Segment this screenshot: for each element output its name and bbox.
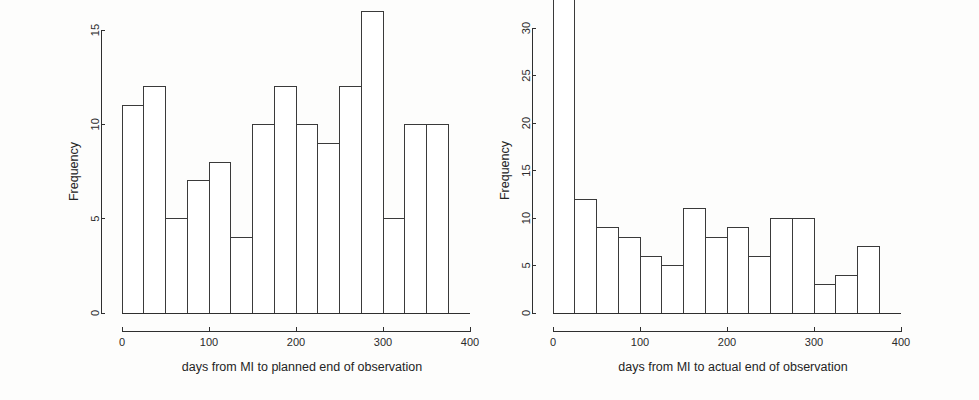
histogram-bar bbox=[340, 87, 362, 313]
y-axis-tick-label: 0 bbox=[520, 310, 532, 316]
histogram-bar bbox=[427, 124, 449, 313]
histogram-bar bbox=[575, 199, 597, 313]
y-axis-tick-label: 10 bbox=[520, 212, 532, 224]
histogram-bar bbox=[122, 105, 144, 313]
histogram-bar bbox=[771, 218, 793, 313]
histogram-panel-actual: 051015202530Frequency0100200300400days f… bbox=[490, 0, 979, 400]
y-axis-tick-label: 20 bbox=[520, 117, 532, 129]
x-axis-title: days from MI to planned end of observati… bbox=[182, 360, 422, 374]
x-axis-title: days from MI to actual end of observatio… bbox=[618, 360, 847, 374]
x-axis-tick-label: 200 bbox=[718, 336, 736, 348]
y-axis-tick-label: 5 bbox=[89, 216, 101, 222]
plot-area-planned: 051015Frequency0100200300400days from MI… bbox=[0, 0, 490, 400]
y-axis-tick-label: 0 bbox=[89, 310, 101, 316]
x-axis-tick-label: 0 bbox=[119, 336, 125, 348]
y-axis-line bbox=[101, 30, 105, 313]
histogram-panel-planned: 051015Frequency0100200300400days from MI… bbox=[0, 0, 490, 400]
x-axis: 0100200300400 bbox=[119, 327, 479, 348]
x-axis-tick-label: 300 bbox=[374, 336, 392, 348]
histogram-bar bbox=[684, 209, 706, 314]
y-axis-planned-or-actual: 051015 bbox=[89, 24, 105, 316]
y-axis-tick-label: 5 bbox=[520, 262, 532, 268]
histogram-bar bbox=[144, 87, 166, 313]
histogram-bar bbox=[383, 219, 405, 313]
histogram-bar bbox=[296, 124, 318, 313]
histogram-bar bbox=[553, 0, 575, 313]
histogram-bar bbox=[749, 256, 771, 313]
x-axis-tick-label: 0 bbox=[550, 336, 556, 348]
y-axis-title: Frequency bbox=[498, 140, 512, 200]
histogram-bar bbox=[705, 237, 727, 313]
y-axis-planned-or-actual: 051015202530 bbox=[520, 22, 536, 316]
histogram-bar bbox=[618, 237, 640, 313]
histogram-bar bbox=[274, 87, 296, 313]
histogram-bar bbox=[836, 275, 858, 313]
y-axis-tick-label: 25 bbox=[520, 69, 532, 81]
histogram-bar bbox=[166, 219, 188, 313]
x-axis-tick-label: 400 bbox=[892, 336, 910, 348]
histogram-bar bbox=[209, 162, 231, 313]
x-axis-tick-label: 100 bbox=[200, 336, 218, 348]
y-axis-tick-label: 30 bbox=[520, 22, 532, 34]
y-axis-tick-label: 10 bbox=[89, 118, 101, 130]
y-axis-tick-label: 15 bbox=[520, 164, 532, 176]
histogram-bar bbox=[231, 238, 253, 313]
y-axis-title: Frequency bbox=[67, 141, 81, 201]
histogram-bar bbox=[318, 143, 340, 313]
histogram-bar bbox=[405, 124, 427, 313]
histogram-bar bbox=[727, 228, 749, 314]
x-axis: 0100200300400 bbox=[550, 327, 910, 348]
histogram-bar bbox=[858, 247, 880, 314]
plot-area-actual: 051015202530Frequency0100200300400days f… bbox=[490, 0, 979, 400]
x-axis-tick-label: 100 bbox=[631, 336, 649, 348]
figure-canvas: 051015Frequency0100200300400days from MI… bbox=[0, 0, 979, 400]
histogram-bar bbox=[253, 124, 275, 313]
histogram-bar bbox=[640, 256, 662, 313]
histogram-bar bbox=[792, 218, 814, 313]
x-axis-tick-label: 300 bbox=[805, 336, 823, 348]
histogram-bar bbox=[187, 181, 209, 313]
x-axis-tick-label: 200 bbox=[287, 336, 305, 348]
x-axis-tick-label: 400 bbox=[461, 336, 479, 348]
y-axis-tick-label: 15 bbox=[89, 24, 101, 36]
histogram-bar bbox=[597, 228, 619, 314]
histogram-bar bbox=[814, 285, 836, 314]
histogram-bars bbox=[553, 0, 879, 313]
histogram-bar bbox=[662, 266, 684, 314]
histogram-bars bbox=[122, 11, 448, 313]
histogram-bar bbox=[361, 11, 383, 313]
